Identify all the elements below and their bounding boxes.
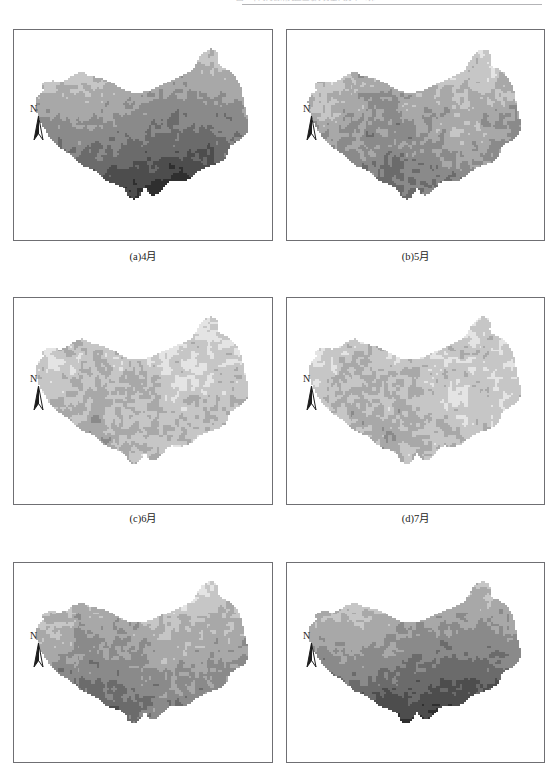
figure-page: 图 4 不同月份研究区土壤水分空间分布（续） NNNNNN (a)4月(b)5月… (0, 0, 556, 763)
panel-caption-c: (c)6月 (13, 512, 273, 525)
raster-map-image (287, 298, 544, 504)
map-panel-a: N (13, 29, 273, 241)
cut-off-header-text: 图 4 不同月份研究区土壤水分空间分布（续） (236, 0, 546, 2)
map-panel-inner: N (14, 563, 272, 762)
map-panel-f: N (286, 562, 545, 763)
cut-off-header: 图 4 不同月份研究区土壤水分空间分布（续） (236, 0, 546, 8)
raster-map-image (14, 298, 272, 504)
raster-map-image (287, 563, 544, 762)
map-panel-inner: N (14, 298, 272, 504)
raster-map-image (287, 30, 544, 240)
raster-map-image (14, 563, 272, 762)
map-panel-c: N (13, 297, 273, 505)
map-panel-inner: N (14, 30, 272, 240)
map-panel-inner: N (287, 563, 544, 762)
map-panel-b: N (286, 29, 545, 241)
map-panel-d: N (286, 297, 545, 505)
map-panel-e: N (13, 562, 273, 763)
panel-caption-a: (a)4月 (13, 250, 273, 263)
map-panel-inner: N (287, 30, 544, 240)
panel-caption-b: (b)5月 (286, 250, 545, 263)
raster-map-image (14, 30, 272, 240)
map-panel-inner: N (287, 298, 544, 504)
panel-caption-d: (d)7月 (286, 512, 545, 525)
header-rule (242, 4, 542, 5)
